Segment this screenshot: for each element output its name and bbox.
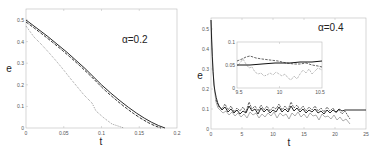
- svg-text:10.5: 10.5: [315, 89, 325, 95]
- svg-text:15: 15: [301, 131, 307, 137]
- svg-text:0.3: 0.3: [202, 66, 209, 72]
- svg-text:20: 20: [332, 131, 338, 137]
- svg-text:0.05: 0.05: [225, 62, 235, 68]
- right-alpha-annotation: α=0.4: [318, 22, 344, 33]
- right-y-axis-label: e: [197, 70, 203, 81]
- svg-text:25: 25: [363, 131, 369, 137]
- svg-text:0.4: 0.4: [17, 39, 24, 45]
- right-y-tick-labels: 0.5 0.4 0.3 0.2 0.1 0: [202, 26, 209, 132]
- svg-text:10: 10: [270, 131, 276, 137]
- right-x-axis-label: t: [288, 137, 291, 148]
- svg-text:0: 0: [210, 131, 213, 137]
- svg-text:0.4: 0.4: [202, 46, 209, 52]
- left-plot-frame: [26, 9, 177, 128]
- inset-chart: 0.1 0.05 0 9.5 10 10.5: [225, 39, 325, 95]
- left-series-dotted: [26, 26, 124, 128]
- svg-text:0.2: 0.2: [17, 82, 24, 88]
- svg-text:9.5: 9.5: [236, 89, 243, 95]
- svg-text:0: 0: [25, 130, 28, 136]
- figure: 0.5 0.4 0.3 0.2 0.1 0 0 0.05 0.1 0.15 0.…: [0, 0, 383, 149]
- svg-text:0.1: 0.1: [202, 106, 209, 112]
- svg-text:0.2: 0.2: [174, 130, 181, 136]
- left-x-tick-labels: 0 0.05 0.1 0.15 0.2: [25, 130, 181, 136]
- left-chart: 0.5 0.4 0.3 0.2 0.1 0 0 0.05 0.1 0.15 0.…: [6, 9, 180, 147]
- svg-text:0.3: 0.3: [17, 60, 24, 66]
- left-alpha-annotation: α=0.2: [122, 34, 148, 45]
- right-chart: 0.5 0.4 0.3 0.2 0.1 0 0 5 10 15 20 25 t …: [197, 18, 369, 148]
- svg-text:10: 10: [277, 89, 283, 95]
- inset-x-tick-labels: 9.5 10 10.5: [236, 89, 326, 95]
- svg-text:0.2: 0.2: [202, 86, 209, 92]
- svg-text:0.05: 0.05: [59, 130, 69, 136]
- svg-text:5: 5: [241, 131, 244, 137]
- svg-text:0.5: 0.5: [202, 26, 209, 32]
- left-x-axis-label: t: [100, 136, 103, 147]
- left-y-axis-label: e: [6, 63, 12, 74]
- svg-text:0.1: 0.1: [228, 39, 235, 45]
- svg-text:0.15: 0.15: [134, 130, 144, 136]
- svg-text:0.5: 0.5: [17, 17, 24, 23]
- left-y-tick-labels: 0.5 0.4 0.3 0.2 0.1 0: [17, 17, 24, 131]
- svg-text:0.1: 0.1: [17, 103, 24, 109]
- inset-y-tick-labels: 0.1 0.05 0: [225, 39, 235, 91]
